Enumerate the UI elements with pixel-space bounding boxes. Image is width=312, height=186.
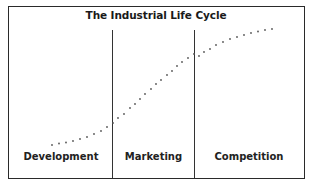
stage-label-development: Development bbox=[10, 151, 112, 162]
stage-label-marketing: Marketing bbox=[113, 151, 194, 162]
stage-label-competition: Competition bbox=[195, 151, 303, 162]
curve-dots bbox=[51, 28, 273, 146]
